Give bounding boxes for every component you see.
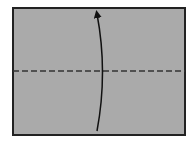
fold-diagram [0,0,196,143]
